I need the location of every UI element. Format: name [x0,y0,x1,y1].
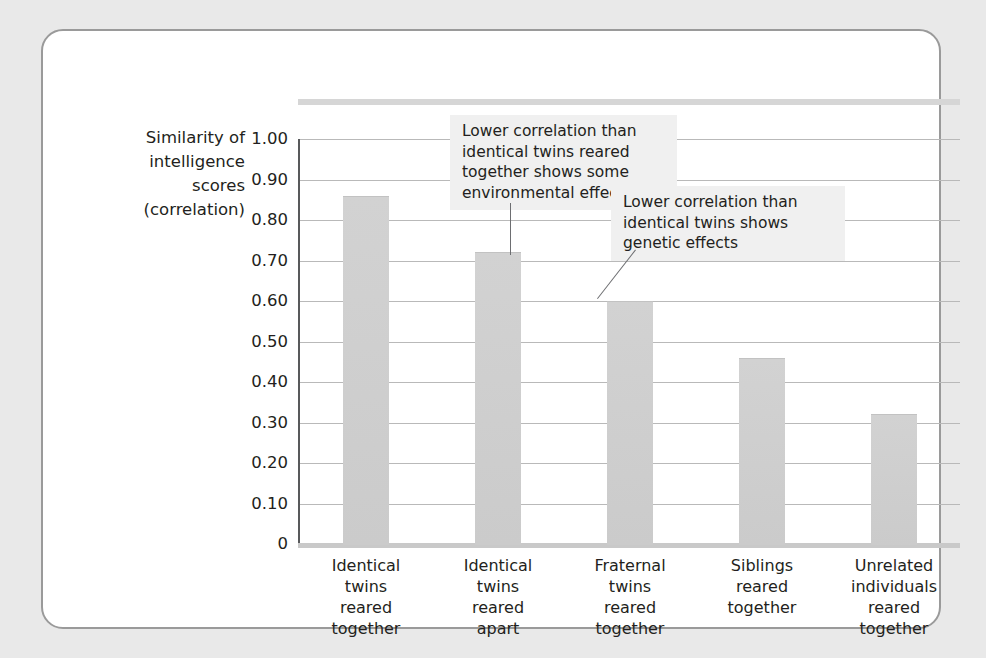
y-axis-tick-label: 0 [193,536,288,552]
plot-top-band [298,99,960,105]
y-axis-tick-label: 1.00 [193,131,288,147]
bar [475,252,521,545]
y-axis-tick-label: 0.80 [193,212,288,228]
y-axis-tick-label: 0.20 [193,455,288,471]
callout-leader-line-1 [510,203,511,255]
gridline [300,261,960,262]
x-axis-label: Identical twins reared apart [433,555,563,639]
y-axis-tick-label: 0.30 [193,415,288,431]
y-axis-line [298,139,300,547]
x-axis-label: Identical twins reared together [301,555,431,639]
y-axis-tick-label: 0.40 [193,374,288,390]
bar [739,358,785,545]
y-axis-tick-label: 0.10 [193,496,288,512]
y-axis-tick-label: 0.50 [193,334,288,350]
figure-page: Similarity of intelligence scores (corre… [0,0,986,658]
bar [607,301,653,545]
x-axis-label: Siblings reared together [697,555,827,618]
bar [343,196,389,545]
callout-genetic-effects: Lower correlation than identical twins s… [611,186,845,261]
figure-card: Similarity of intelligence scores (corre… [41,29,941,629]
y-axis-tick-label: 0.90 [193,172,288,188]
bar [871,414,917,545]
x-axis-label: Fraternal twins reared together [565,555,695,639]
x-axis-label: Unrelated individuals reared together [829,555,959,639]
y-axis-tick-label: 0.60 [193,293,288,309]
y-axis-tick-label: 0.70 [193,253,288,269]
